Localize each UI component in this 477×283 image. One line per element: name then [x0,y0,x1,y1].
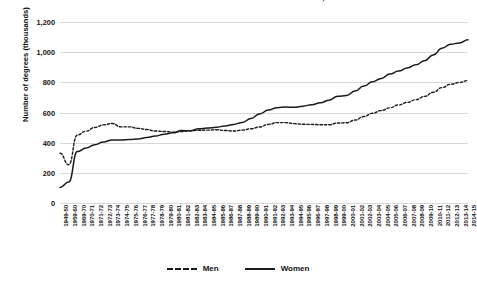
x-axis-tick-label: 1995-96 [305,205,312,227]
x-axis-tick-label: 2011-12 [444,205,451,226]
x-axis-tick-label: 1981-82 [184,205,191,227]
x-axis-tick-label: 1997-98 [323,205,330,227]
y-axis-tick-label: 400 [43,138,55,147]
x-axis-tick-label: 1949-50 [62,205,69,227]
y-axis-tick-label: 600 [43,108,55,117]
x-axis-tick-label: 2013-14 [462,205,469,227]
x-axis-tick-label: 2001-02 [358,205,365,227]
x-axis-tick-label: 2008-09 [418,205,425,227]
y-axis-tick-label: 200 [43,168,55,177]
x-axis-tick-label: 1971-72 [97,205,104,227]
y-axis-title: Number of degrees (thousands) [21,0,30,135]
x-axis-tick-label: 1989-90 [253,205,260,227]
x-axis-tick-label: 1969-70 [80,205,87,227]
x-axis-tick-label: 2010-11 [436,205,443,226]
plot-area: 02004006008001,0001,200 [60,22,468,203]
x-axis-tick-label: 1975-76 [132,205,139,227]
x-axis-tick-label: 2000-01 [349,205,356,227]
x-axis-tick-label: 2005-06 [392,205,399,227]
x-axis-tick-label: 1980-81 [175,205,182,227]
x-axis-tick-label: 1993-94 [288,205,295,227]
x-axis-tick-label: 1959-60 [71,205,78,227]
x-axis-tick-labels: 1949-501959-601969-701970-711971-721972-… [60,205,468,257]
x-axis-tick-label: 2006-07 [401,205,408,227]
x-axis-tick-label: 1985-86 [219,205,226,227]
x-axis-tick-label: 1999-00 [340,205,347,227]
legend-entry-women: Women [245,264,310,273]
y-axis-tick-label: 800 [43,78,55,87]
series-lines [60,22,468,203]
x-axis-tick-label: 1979-80 [167,205,174,227]
x-axis-tick-label: 2012-13 [453,205,460,227]
legend-label: Men [203,264,219,273]
x-axis-tick-label: 1992-93 [279,205,286,227]
x-axis-tick-label: 2009-10 [427,205,434,227]
x-axis-tick-label: 1972-73 [106,205,113,227]
x-axis-tick-label: 1990-91 [262,205,269,227]
legend-swatch-dashed-icon [167,268,197,270]
x-axis-tick-label: 1977-78 [149,205,156,227]
x-axis-tick-label: 1973-74 [114,205,121,227]
x-axis-tick-label: 1983-84 [201,205,208,227]
x-axis-tick-label: 1986-87 [227,205,234,227]
x-axis-tick-label: 1991-92 [271,205,278,227]
x-axis-tick-label: 1970-71 [88,205,95,227]
x-axis-tick-label: 1976-77 [141,205,148,227]
x-axis-tick-label: 2007-08 [410,205,417,227]
line-men [60,81,468,165]
y-axis-tick-label: 1,000 [37,48,56,57]
legend-entry-men: Men [167,264,219,273]
x-axis-tick-label: 2014-15 [470,205,477,227]
legend-swatch-solid-icon [245,268,275,270]
x-axis-tick-label: 1987-88 [236,205,243,227]
x-axis-tick-label: 1978-79 [158,205,165,227]
line-women [60,40,468,188]
y-axis-tick-label: 1,200 [37,18,56,27]
x-axis-tick-label: 1984-85 [210,205,217,227]
x-axis-tick-label: 1994-95 [297,205,304,227]
x-axis-tick-label: 1974-75 [123,205,130,227]
x-axis-tick-label: 1982-83 [193,205,200,227]
x-axis-tick-label: 2002-03 [366,205,373,227]
x-axis-tick-label: 1996-97 [314,205,321,227]
chart-title: BACHELOR'S DEGREES CONFERRED BY GENDER, … [0,0,476,2]
legend-label: Women [281,264,310,273]
chart-legend: MenWomen [0,264,476,273]
x-axis-tick-label: 1988-89 [245,205,252,227]
x-axis-tick-label: 2004-05 [384,205,391,227]
x-axis-tick-label: 1998-99 [332,205,339,227]
y-axis-tick-label: 0 [51,199,55,208]
x-axis-tick-label: 2003-04 [375,205,382,227]
